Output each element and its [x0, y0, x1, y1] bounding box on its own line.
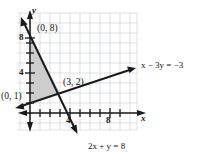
y-tick-label-4: 4 — [19, 68, 24, 77]
equation-label-x-minus-3y: x − 3y = −3 — [141, 61, 183, 70]
point-label-0-1: (0, 1) — [1, 92, 22, 102]
point-label-3-2: (3, 2) — [63, 78, 84, 88]
point-label-0-8: (0, 8) — [37, 24, 58, 34]
y-axis-label: y — [32, 6, 36, 15]
x-tick-label-4: 4 — [66, 116, 71, 125]
x-axis-label: x — [141, 114, 146, 123]
x-tick-label-8: 8 — [106, 116, 111, 125]
equation-label-2x-plus-y: 2x + y = 8 — [88, 142, 125, 151]
y-tick-label-8: 8 — [19, 33, 24, 42]
coordinate-graph-figure — [0, 0, 200, 159]
